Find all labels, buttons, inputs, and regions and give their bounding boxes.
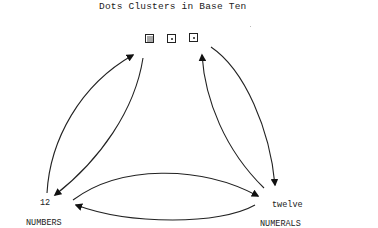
arrow-numbers-to-numerals xyxy=(73,173,258,200)
arrows-layer xyxy=(0,0,378,228)
diagram-canvas: Dots Clusters in Base Ten 12 NUMBERS twe… xyxy=(0,0,378,228)
arrow-numerals-to-clusters xyxy=(202,55,264,188)
arrow-clusters-to-numbers xyxy=(55,58,143,195)
arrow-numbers-to-clusters xyxy=(47,55,133,193)
arrow-numerals-to-numbers xyxy=(76,205,255,220)
